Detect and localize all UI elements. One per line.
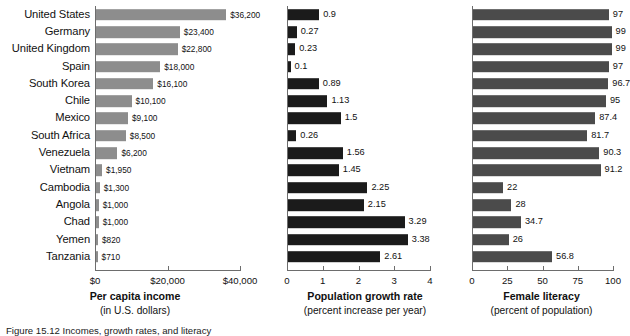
bar-value-label: 81.7: [591, 131, 609, 140]
bar-row: Germany$23,400: [0, 23, 270, 40]
bar-row: Spain$18,000: [0, 58, 270, 75]
panel-female-literacy: 9799999796.79587.481.790.391.2222834.726…: [455, 0, 628, 333]
category-label: South Africa: [31, 130, 90, 141]
axis-title-growth: Population growth rate: [270, 290, 460, 302]
axis-tick: [323, 266, 324, 270]
bar-row: 96.7: [455, 75, 628, 92]
bar-row: 1.5: [270, 110, 460, 127]
bar-row: 3.38: [270, 231, 460, 248]
bar-value-label: $710: [102, 253, 120, 261]
bar-value-label: $820: [102, 235, 120, 243]
bar: [287, 251, 380, 263]
bar-row: South Africa$8,500: [0, 127, 270, 144]
plot-area-income: United States$36,200Germany$23,400United…: [0, 6, 270, 268]
axis-tick: [359, 266, 360, 270]
bar-row: 81.7: [455, 127, 628, 144]
axis-tick-label: 100: [605, 275, 621, 286]
bar-value-label: $8,500: [130, 132, 155, 140]
bar-value-label: 26: [513, 235, 523, 244]
bar: [472, 61, 609, 73]
panel-per-capita-income: United States$36,200Germany$23,400United…: [0, 0, 270, 333]
axis-tick: [394, 266, 395, 270]
bar-row: South Korea$16,100: [0, 75, 270, 92]
bar: [472, 216, 521, 228]
bar-value-label: 2.15: [368, 200, 386, 209]
bar: [287, 165, 339, 177]
bar-row: 22: [455, 179, 628, 196]
bar-row: Chile$10,100: [0, 93, 270, 110]
bar-value-label: $16,100: [157, 80, 187, 88]
bar: [472, 113, 595, 125]
bar-row: United Kingdom$22,800: [0, 41, 270, 58]
bar: [472, 43, 612, 55]
axis-subtitle-literacy: (percent of population): [455, 305, 628, 316]
bar: [472, 147, 599, 159]
bar-value-label: 99: [616, 45, 626, 54]
axis-tick-label: 4: [427, 275, 432, 286]
axis-tick: [507, 266, 508, 270]
axis-tick-label: 3: [392, 275, 397, 286]
bar-value-label: 90.3: [603, 148, 621, 157]
axis-subtitle-growth: (percent increase per year): [270, 305, 460, 316]
bar-row: United States$36,200: [0, 6, 270, 23]
bar-row: Yemen$820: [0, 231, 270, 248]
axis-title-income: Per capita income: [0, 290, 270, 302]
bar: [287, 234, 408, 246]
bar-value-label: $9,100: [132, 114, 157, 122]
bar: [472, 251, 552, 263]
axis-tick-label: 0: [469, 275, 474, 286]
bar: [472, 234, 509, 246]
category-label: United Kingdom: [12, 44, 90, 55]
bar: [95, 26, 180, 38]
bar: [287, 26, 297, 38]
bar: [95, 113, 128, 125]
axis-tick-label: $20,000: [150, 275, 185, 286]
bar-row: Angola$1,000: [0, 196, 270, 213]
bar-value-label: $6,200: [121, 149, 146, 157]
bar-row: 28: [455, 196, 628, 213]
bar: [95, 43, 178, 55]
axis-tick: [430, 266, 431, 270]
bar-value-label: 34.7: [525, 218, 543, 227]
x-axis-line-income: [95, 270, 241, 271]
bar: [95, 147, 117, 159]
bar-value-label: $1,300: [104, 183, 129, 191]
bar: [95, 78, 153, 90]
bar-rows-income: United States$36,200Germany$23,400United…: [0, 6, 270, 268]
bar: [95, 130, 126, 142]
axis-tick: [240, 266, 241, 270]
category-label: Chile: [65, 96, 90, 107]
bar-row: 3.29: [270, 214, 460, 231]
plot-area-literacy: 9799999796.79587.481.790.391.2222834.726…: [455, 6, 628, 268]
panel-population-growth-rate: 0.90.270.230.10.891.131.50.261.561.452.2…: [270, 0, 460, 333]
bar: [287, 199, 364, 211]
bar-row: 99: [455, 23, 628, 40]
axis-tick: [543, 266, 544, 270]
bar-value-label: 0.26: [300, 131, 318, 140]
bar: [472, 199, 511, 211]
bar: [472, 95, 606, 107]
category-label: United States: [24, 9, 90, 20]
bar: [472, 182, 503, 194]
bar-value-label: 28: [515, 200, 525, 209]
bar: [95, 61, 160, 73]
category-label: Angola: [56, 199, 90, 210]
bar-row: 0.9: [270, 6, 460, 23]
bar: [287, 182, 367, 194]
axis-tick: [613, 266, 614, 270]
bar: [287, 9, 319, 21]
x-axis-line-growth: [287, 270, 431, 271]
bar: [472, 9, 609, 21]
axis-tick-label: $0: [90, 275, 101, 286]
axis-title-literacy: Female literacy: [455, 290, 628, 302]
bar-row: 1.13: [270, 93, 460, 110]
bar-row: Chad$1,000: [0, 214, 270, 231]
axis-tick: [287, 266, 288, 270]
category-label: Venezuela: [39, 147, 90, 158]
bar-row: 0.27: [270, 23, 460, 40]
bar-value-label: $18,000: [164, 62, 194, 70]
plot-area-growth: 0.90.270.230.10.891.131.50.261.561.452.2…: [270, 6, 460, 268]
bar: [287, 43, 295, 55]
bar-value-label: $36,200: [230, 10, 260, 18]
bar-rows-literacy: 9799999796.79587.481.790.391.2222834.726…: [455, 6, 628, 268]
